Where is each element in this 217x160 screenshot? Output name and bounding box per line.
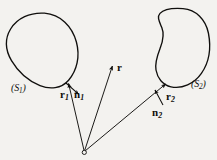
vector-label-n2: n2 — [152, 107, 162, 120]
diagram-svg — [0, 0, 217, 160]
vector-r-line — [84, 66, 112, 152]
vector-label-r2: r2 — [166, 91, 175, 104]
vector-label-r: r — [117, 62, 122, 73]
vector-label-r1: r1 — [60, 89, 69, 102]
vector-label-n1: n1 — [74, 89, 84, 102]
surface-label-s2: (S2) — [191, 79, 206, 91]
figure-canvas: (S1) (S2) r1 r r2 n1 n2 — [0, 0, 217, 160]
origin-point-marker — [82, 150, 86, 154]
surface-label-s1: (S1) — [11, 83, 26, 95]
vector-n2-line — [155, 90, 163, 105]
surface-curve-s2 — [156, 8, 210, 87]
surface-curve-s1 — [7, 13, 78, 88]
